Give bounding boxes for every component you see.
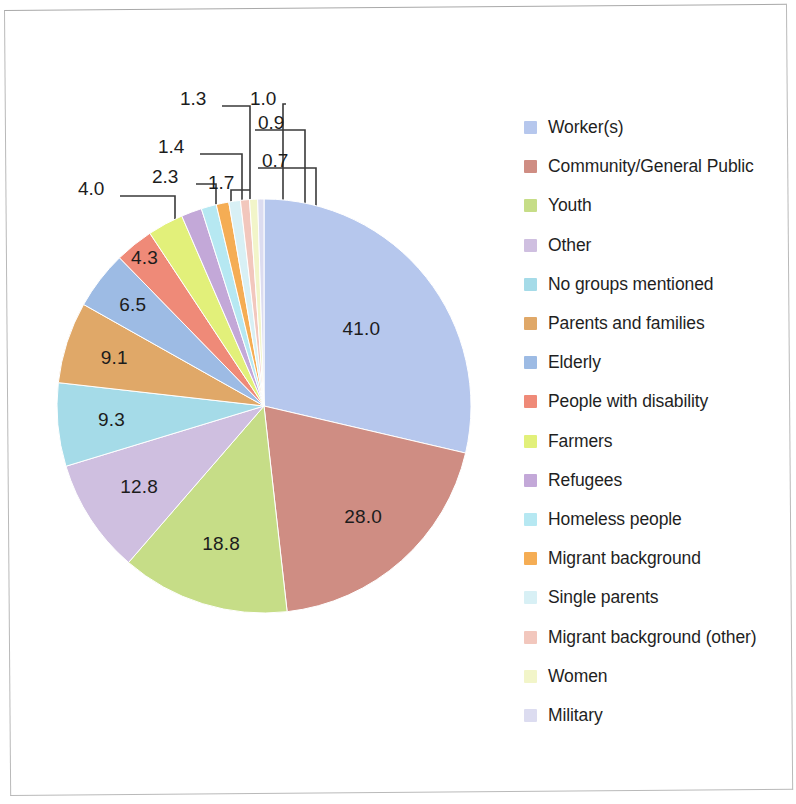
legend-item-label: Women <box>548 666 607 687</box>
legend-item-label: No groups mentioned <box>548 274 713 295</box>
legend-swatch-icon <box>524 552 537 565</box>
legend-swatch-icon <box>524 278 537 291</box>
legend-item: Other <box>524 226 792 265</box>
slice-value-label: 2.3 <box>152 166 178 188</box>
legend-swatch-icon <box>524 709 537 722</box>
legend-item: Youth <box>524 186 792 225</box>
legend-item: Military <box>524 696 792 735</box>
legend-swatch-icon <box>524 239 537 252</box>
slice-value-label: 1.7 <box>208 172 234 194</box>
legend-item-label: Parents and families <box>548 313 705 334</box>
legend-item: Community/General Public <box>524 147 792 186</box>
legend-item-label: Single parents <box>548 587 658 608</box>
slice-value-label: 41.0 <box>342 318 380 340</box>
slice-value-label: 9.1 <box>101 347 128 369</box>
legend-item: No groups mentioned <box>524 265 792 304</box>
legend-swatch-icon <box>524 160 537 173</box>
legend-item: Women <box>524 657 792 696</box>
slice-value-label: 0.9 <box>258 112 284 134</box>
legend-swatch-icon <box>524 395 537 408</box>
legend-item-label: Farmers <box>548 431 612 452</box>
legend-swatch-icon <box>524 513 537 526</box>
legend-item-label: Elderly <box>548 352 601 373</box>
legend-item: Farmers <box>524 422 792 461</box>
slice-value-label: 4.3 <box>131 247 158 269</box>
slice-value-label: 0.7 <box>262 150 288 172</box>
slice-value-label: 1.4 <box>158 136 184 158</box>
legend-item-label: Other <box>548 235 591 256</box>
slice-value-label: 12.8 <box>120 476 158 498</box>
legend-swatch-icon <box>524 317 537 330</box>
pie-chart: 41.028.018.812.89.39.16.54.34.02.31.71.4… <box>0 0 796 804</box>
legend-item-label: People with disability <box>548 391 708 412</box>
slice-value-label: 1.3 <box>180 88 206 110</box>
slice-value-label: 1.0 <box>250 88 276 110</box>
legend-swatch-icon <box>524 356 537 369</box>
legend-item: Refugees <box>524 461 792 500</box>
legend-swatch-icon <box>524 435 537 448</box>
legend-item-label: Youth <box>548 195 592 216</box>
legend-item: Migrant background (other) <box>524 617 792 656</box>
slice-value-label: 6.5 <box>119 294 146 316</box>
pie-slices <box>54 196 474 616</box>
slice-value-label: 4.0 <box>78 178 104 200</box>
legend-item: Worker(s) <box>524 108 792 147</box>
legend-item: Single parents <box>524 578 792 617</box>
legend-item-label: Refugees <box>548 470 622 491</box>
legend-item-label: Military <box>548 705 603 726</box>
legend-swatch-icon <box>524 591 537 604</box>
legend-item: Migrant background <box>524 539 792 578</box>
legend-swatch-icon <box>524 199 537 212</box>
slice-value-label: 9.3 <box>98 409 125 431</box>
legend-swatch-icon <box>524 631 537 644</box>
legend-item-label: Migrant background (other) <box>548 627 756 648</box>
slice-value-label: 28.0 <box>344 506 382 528</box>
legend-item: Parents and families <box>524 304 792 343</box>
legend-item: People with disability <box>524 382 792 421</box>
legend-item: Elderly <box>524 343 792 382</box>
legend-item-label: Homeless people <box>548 509 682 530</box>
legend-swatch-icon <box>524 474 537 487</box>
chart-legend: Worker(s)Community/General PublicYouthOt… <box>524 108 792 735</box>
legend-item-label: Migrant background <box>548 548 701 569</box>
slice-value-label: 18.8 <box>202 533 240 555</box>
legend-item-label: Community/General Public <box>548 156 754 177</box>
legend-item-label: Worker(s) <box>548 117 624 138</box>
legend-swatch-icon <box>524 121 537 134</box>
legend-swatch-icon <box>524 670 537 683</box>
pie-graphic <box>54 196 474 616</box>
legend-item: Homeless people <box>524 500 792 539</box>
